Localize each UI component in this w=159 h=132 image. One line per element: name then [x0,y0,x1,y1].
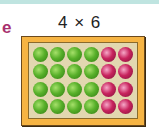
multiplication-title: 4 × 6 [58,14,101,31]
green-counter-icon [67,99,82,114]
green-counter-icon [67,64,82,79]
pink-counter-icon [101,82,116,97]
green-counter-icon [33,64,48,79]
top-strip [0,0,159,4]
green-counter-icon [84,47,99,62]
green-counter-icon [33,99,48,114]
pink-counter-icon [118,47,133,62]
pink-counter-icon [101,64,116,79]
green-counter-icon [33,82,48,97]
counter-array [28,42,138,119]
green-counter-icon [50,99,65,114]
green-counter-icon [50,64,65,79]
green-counter-icon [50,82,65,97]
green-counter-icon [84,99,99,114]
green-counter-icon [84,82,99,97]
green-counter-icon [84,64,99,79]
pink-counter-icon [118,82,133,97]
array-frame [21,36,145,126]
green-counter-icon [67,82,82,97]
green-counter-icon [33,47,48,62]
pink-counter-icon [101,47,116,62]
item-label: e [2,19,11,36]
pink-counter-icon [118,64,133,79]
pink-counter-icon [101,99,116,114]
green-counter-icon [67,47,82,62]
pink-counter-icon [118,99,133,114]
green-counter-icon [50,47,65,62]
